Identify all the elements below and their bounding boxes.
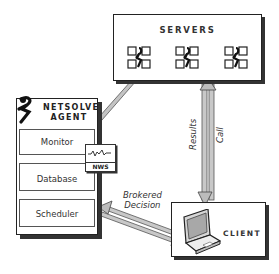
client-box: CLIENT — [171, 202, 266, 257]
results-call-arrows — [198, 78, 216, 206]
brokered-line2: Decision — [123, 200, 162, 210]
nws-label: NWS — [86, 162, 115, 171]
servers-title: SERVERS — [114, 25, 261, 35]
netsolve-logo-icon — [13, 95, 39, 125]
agent-title-line1: NETSOLVE — [43, 103, 95, 113]
monitor-module: Monitor — [19, 129, 95, 155]
results-label: Results — [188, 119, 198, 150]
signal-graph-icon — [86, 145, 113, 161]
database-module: Database — [19, 163, 95, 191]
servers-box: SERVERS — [113, 14, 262, 81]
server-icon — [224, 45, 250, 71]
agent-title: NETSOLVE AGENT — [43, 103, 95, 122]
brokered-decision-label: Brokered Decision — [123, 190, 162, 210]
server-icon — [175, 45, 201, 71]
client-title: CLIENT — [223, 229, 261, 238]
brokered-line1: Brokered — [123, 190, 162, 200]
nws-box: NWS — [85, 144, 116, 172]
scheduler-module: Scheduler — [19, 199, 95, 227]
laptop-icon — [178, 209, 222, 255]
server-icon — [127, 45, 153, 71]
call-label: Call — [215, 127, 225, 143]
agent-title-line2: AGENT — [43, 113, 95, 123]
